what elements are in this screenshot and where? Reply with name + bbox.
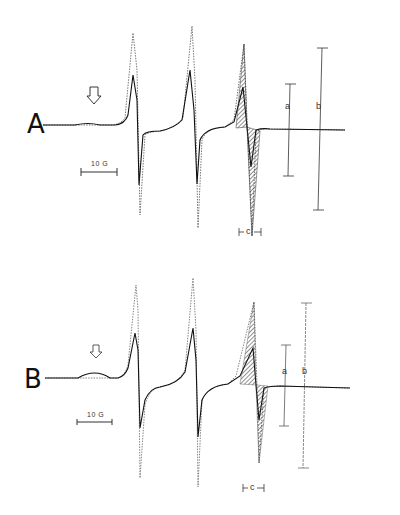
dimension-b-bar: [313, 48, 328, 210]
panel-b-spectrum: [45, 278, 350, 492]
hatched-line-a-lower: [247, 127, 260, 236]
dimension-a-bar: [283, 84, 296, 176]
scale-bar-label-a: 10 G: [91, 160, 108, 167]
panel-a-spectrum: [43, 26, 345, 236]
dimension-b-bar: [298, 303, 312, 468]
solid-trace-a: [43, 70, 345, 185]
dimension-label-a: a: [282, 366, 287, 376]
figure-canvas: [0, 0, 400, 515]
arrow-down-icon: [87, 87, 101, 104]
dimension-label-b: b: [316, 101, 321, 111]
dimension-label-c: c: [246, 226, 251, 236]
scale-bar-b: [77, 419, 112, 425]
dashed-trace-b: [45, 278, 350, 487]
hatched-line-b: [240, 302, 256, 385]
arrow-down-icon: [90, 345, 102, 358]
dashed-trace-a: [43, 26, 345, 236]
scale-bar-a: [81, 168, 117, 176]
hatched-line-a: [236, 44, 247, 128]
solid-trace-b: [45, 328, 350, 437]
hatched-line-b-lower: [256, 385, 268, 463]
dimension-label-b: b: [302, 366, 307, 376]
scale-bar-label-b: 10 G: [87, 411, 104, 418]
panel-label-b: B: [24, 364, 42, 394]
dimension-label-a: a: [285, 101, 290, 111]
panel-label-a: A: [27, 109, 45, 139]
dimension-label-c: c: [250, 482, 255, 492]
